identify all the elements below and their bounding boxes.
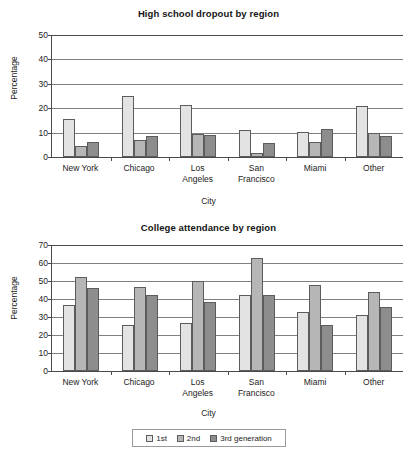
- x-axis-tick-mark: [228, 371, 229, 375]
- legend-label: 3rd generation: [220, 434, 272, 443]
- x-axis-tick-label: New York: [51, 377, 110, 398]
- bar: [309, 142, 321, 157]
- bar: [204, 302, 216, 371]
- y-axis-tick-label: 30: [39, 79, 48, 89]
- x-axis-tick-label: SanFrancisco: [227, 377, 286, 398]
- bar: [297, 312, 309, 371]
- bar: [122, 325, 134, 371]
- plot-area: 010203040506070: [51, 245, 403, 372]
- y-axis-tick-label: 50: [39, 30, 48, 40]
- x-axis-tick-mark: [286, 157, 287, 161]
- bar-groups: [52, 35, 403, 157]
- bar: [297, 132, 309, 157]
- x-axis-tick-label: Chicago: [110, 377, 169, 398]
- bar: [122, 96, 134, 157]
- x-axis-tick-mark: [345, 157, 346, 161]
- bar: [75, 277, 87, 371]
- plot-area: 01020304050: [51, 35, 403, 158]
- x-axis-tick-label: Miami: [286, 163, 345, 184]
- legend-item[interactable]: 3rd generation: [210, 434, 272, 443]
- legend-label: 1st: [156, 434, 167, 443]
- x-axis-tick-label: Other: [344, 377, 403, 398]
- bar: [321, 129, 333, 157]
- y-axis-label: Percentage: [9, 56, 19, 99]
- bar-group: [286, 35, 345, 157]
- bar: [63, 305, 75, 371]
- y-axis-tick-mark: [48, 157, 52, 158]
- x-axis-label: City: [0, 408, 417, 418]
- bar: [321, 325, 333, 371]
- bar: [146, 295, 158, 372]
- x-axis-tick-label: SanFrancisco: [227, 163, 286, 184]
- bar: [204, 135, 216, 157]
- y-axis-tick-label: 50: [39, 276, 48, 286]
- legend-swatch-icon: [177, 435, 184, 442]
- figure-panel: High school dropout by region Percentage…: [0, 0, 417, 461]
- bar-group: [169, 35, 228, 157]
- x-axis-tick-mark: [111, 157, 112, 161]
- bar: [75, 146, 87, 157]
- bar: [87, 142, 99, 157]
- x-axis-tick-label: Chicago: [110, 163, 169, 184]
- chart-title: College attendance by region: [0, 222, 417, 233]
- x-axis-tick-label: LosAngeles: [168, 377, 227, 398]
- bar: [251, 153, 263, 157]
- bar: [239, 130, 251, 157]
- bar-group: [228, 35, 287, 157]
- y-axis-tick-label: 30: [39, 312, 48, 322]
- bar: [251, 258, 263, 371]
- chart-title: High school dropout by region: [0, 8, 417, 19]
- chart-college-attendance: College attendance by region Percentage …: [0, 214, 417, 419]
- y-axis-tick-label: 20: [39, 330, 48, 340]
- legend-item[interactable]: 2nd: [177, 434, 200, 443]
- bar-group: [111, 245, 170, 371]
- x-axis-label: City: [0, 196, 417, 206]
- legend-swatch-icon: [210, 435, 217, 442]
- bar-group: [52, 35, 111, 157]
- x-axis-tick-label: Other: [344, 163, 403, 184]
- x-axis-tick-mark: [169, 157, 170, 161]
- bar: [239, 295, 251, 372]
- y-axis-label: Percentage: [9, 276, 19, 319]
- y-axis-tick-label: 40: [39, 54, 48, 64]
- bar: [134, 287, 146, 371]
- legend-item[interactable]: 1st: [146, 434, 167, 443]
- bar-group: [345, 245, 404, 371]
- bar-group: [111, 35, 170, 157]
- x-axis-tick-mark: [169, 371, 170, 375]
- bar-group: [52, 245, 111, 371]
- bar: [192, 281, 204, 371]
- y-axis-tick-mark: [48, 371, 52, 372]
- bar-group: [286, 245, 345, 371]
- bar: [263, 143, 275, 157]
- legend-swatch-icon: [146, 435, 153, 442]
- bar: [87, 288, 99, 371]
- legend: 1st2nd3rd generation: [132, 429, 286, 447]
- bar: [356, 106, 368, 157]
- x-axis-tick-mark: [345, 371, 346, 375]
- bar: [380, 136, 392, 157]
- x-axis-tick-mark: [228, 157, 229, 161]
- bar: [380, 307, 392, 371]
- y-axis-tick-label: 40: [39, 294, 48, 304]
- y-axis-tick-label: 60: [39, 258, 48, 268]
- x-axis-tick-label: New York: [51, 163, 110, 184]
- bar: [356, 315, 368, 371]
- bar: [368, 133, 380, 157]
- bar: [134, 140, 146, 157]
- bar: [146, 136, 158, 157]
- bar: [309, 285, 321, 371]
- bar: [180, 323, 192, 371]
- bar-group: [345, 35, 404, 157]
- x-axis-tick-label: LosAngeles: [168, 163, 227, 184]
- y-axis-tick-label: 10: [39, 348, 48, 358]
- bar: [180, 105, 192, 157]
- y-axis-tick-label: 10: [39, 128, 48, 138]
- x-axis-tick-mark: [286, 371, 287, 375]
- x-axis-tick-labels: New YorkChicagoLosAngelesSanFranciscoMia…: [51, 163, 403, 184]
- x-axis-tick-labels: New YorkChicagoLosAngelesSanFranciscoMia…: [51, 377, 403, 398]
- bar: [368, 292, 380, 371]
- x-axis-tick-label: Miami: [286, 377, 345, 398]
- legend-label: 2nd: [187, 434, 200, 443]
- y-axis-tick-label: 70: [39, 240, 48, 250]
